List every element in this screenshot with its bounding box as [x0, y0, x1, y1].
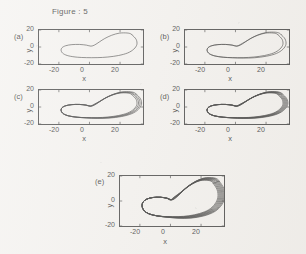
panel-b-ytick-mid: 0: [164, 42, 180, 49]
panel-c-ytick-mid: 0: [18, 102, 34, 109]
orbit-band: [61, 33, 137, 58]
panel-b-xtick-mid: 0: [221, 66, 235, 73]
panel-a-xtick-mid: 0: [75, 66, 89, 73]
panel-e-ytick-bot: -20: [95, 221, 115, 228]
panel-a-ytick-top: 20: [18, 25, 34, 32]
box-d-curves: [185, 90, 289, 124]
panel-d-xtick-right: 20: [253, 126, 269, 133]
panel-b-plot: [184, 29, 290, 65]
orbit-band: [61, 92, 138, 117]
panel-d-xlabel: x: [225, 134, 235, 143]
box-b-curves: [185, 30, 289, 64]
panel-c-xtick-mid: 0: [75, 126, 89, 133]
panel-e-xtick-right: 20: [188, 228, 204, 235]
panel-c-xtick-right: 20: [107, 126, 123, 133]
panel-b-xlabel: x: [225, 74, 235, 83]
box-e-curves: [120, 176, 224, 226]
orbit-band: [207, 32, 286, 58]
orbit-band: [207, 33, 283, 58]
panel-d-plot: [184, 89, 290, 125]
orbit-band: [142, 178, 223, 218]
panel-d-ytick-bot: -20: [160, 119, 180, 126]
panel-a-ytick-mid: 0: [18, 42, 34, 49]
panel-a-xtick-right: 20: [107, 66, 123, 73]
panel-c-xtick-left: -20: [44, 126, 64, 133]
orbit-band: [61, 93, 137, 118]
box-c-curves: [39, 90, 143, 124]
orbit-band: [142, 179, 220, 217]
panel-d-ytick-mid: 0: [164, 102, 180, 109]
panel-a-xlabel: x: [79, 74, 89, 83]
panel-c-tag: (c): [14, 92, 23, 101]
orbit-band: [207, 92, 288, 119]
panel-b-ytick-top: 20: [164, 25, 180, 32]
panel-d-xtick-left: -20: [190, 126, 210, 133]
panel-c-plot: [38, 89, 144, 125]
panel-d-xtick-mid: 0: [221, 126, 235, 133]
panel-a-tag: (a): [14, 32, 23, 41]
orbit-band: [207, 92, 287, 118]
panel-b-xtick-right: 20: [253, 66, 269, 73]
panel-c-ytick-top: 20: [18, 85, 34, 92]
panel-a-ytick-bot: -20: [14, 59, 34, 66]
panel-c-ytick-bot: -20: [14, 119, 34, 126]
orbit-band: [61, 92, 140, 118]
panel-e-tag: (e): [95, 177, 104, 186]
orbit-band: [142, 180, 219, 217]
panel-e-ytick-top: 20: [99, 171, 115, 178]
orbit-band: [142, 179, 221, 217]
orbit-band: [61, 92, 142, 119]
panel-e-xlabel: x: [160, 237, 170, 246]
panel-e-ytick-mid: 0: [99, 196, 115, 203]
panel-c-xlabel: x: [79, 134, 89, 143]
panel-a-plot: [38, 29, 144, 65]
figure-title: Figure : 5: [52, 7, 88, 16]
panel-b-xtick-left: -20: [190, 66, 210, 73]
box-a-curves: [39, 30, 143, 64]
orbit-band: [142, 179, 222, 218]
orbit-band: [207, 92, 286, 118]
panel-d-ytick-top: 20: [164, 85, 180, 92]
panel-e-plot: [119, 175, 225, 227]
panel-e-xtick-mid: 0: [156, 228, 170, 235]
panel-a-xtick-left: -20: [44, 66, 64, 73]
orbit-band: [207, 92, 285, 118]
panel-b-ytick-bot: -20: [160, 59, 180, 66]
panel-e-xtick-left: -20: [125, 228, 145, 235]
panel-d-tag: (d): [160, 92, 169, 101]
panel-b-tag: (b): [160, 32, 169, 41]
